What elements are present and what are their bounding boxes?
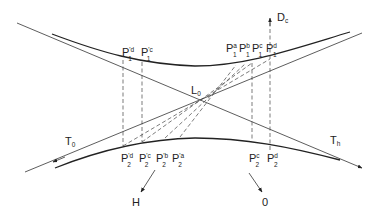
label-p2-bprime: P'b2 (156, 152, 169, 168)
label-th: Th (330, 134, 341, 147)
label-p2-cprime: P'c2 (139, 152, 152, 168)
arrow-h (141, 170, 155, 192)
label-p1-a: Pa1 (226, 42, 237, 58)
label-p2-aprime: P'a2 (172, 152, 185, 168)
upper-curve (52, 32, 350, 66)
label-p2-d: Pd2 (267, 152, 278, 168)
lower-curve (55, 138, 340, 168)
label-p1-cprime: P'c1 (141, 46, 154, 62)
lower-point-labels: P'd2 P'c2 P'b2 P'a2 Pc2 Pd2 (121, 152, 278, 168)
arrow-o (249, 173, 262, 192)
tangent-line-t0 (25, 33, 362, 172)
hyperbola-diagram: L0 Dc T0 Th H 0 P'd1 P'c1 Pa1 Pb1 Pc1 Pd… (0, 0, 384, 216)
label-p2-c: Pc2 (249, 152, 260, 168)
label-p2-dprime: P'd2 (121, 152, 134, 168)
ray-d (123, 59, 270, 146)
label-p1-dprime: P'd1 (122, 46, 135, 62)
label-l0: L0 (191, 84, 201, 97)
label-o: 0 (262, 196, 268, 208)
label-dc: Dc (277, 11, 289, 24)
ray-a (180, 65, 236, 137)
label-p1-c: Pc1 (252, 42, 263, 58)
ray-b (165, 64, 245, 138)
label-h: H (132, 196, 140, 208)
label-t0: T0 (65, 135, 76, 148)
dashed-rays (123, 59, 270, 146)
label-p1-b: Pb1 (239, 42, 250, 58)
